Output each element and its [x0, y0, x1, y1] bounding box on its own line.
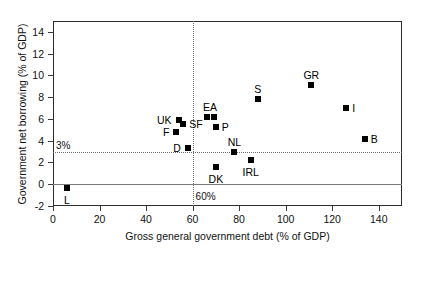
data-point-label: B [371, 134, 378, 145]
y-axis-tick [48, 141, 53, 142]
x-axis-tick [379, 206, 380, 211]
scatter-chart: 3%60%020406080100120140-202468101214Gros… [0, 0, 438, 307]
data-point [64, 185, 70, 191]
data-point [204, 114, 210, 120]
data-point [255, 96, 261, 102]
x-axis-tick-label: 140 [370, 214, 388, 225]
data-point-label: D [173, 143, 181, 154]
data-point [176, 117, 182, 123]
y-axis-tick-label: 0 [38, 179, 44, 190]
data-point-label: E [203, 102, 210, 113]
x-axis-tick-label: 40 [140, 214, 152, 225]
y-axis-tick-label: 6 [38, 114, 44, 125]
data-point-label: GR [303, 70, 319, 81]
x-axis-tick [53, 206, 54, 211]
reference-line-3pct [53, 152, 402, 153]
y-axis-tick [48, 54, 53, 55]
data-point [213, 164, 219, 170]
y-axis-tick [48, 75, 53, 76]
data-point [308, 82, 314, 88]
data-point [231, 149, 237, 155]
y-axis-tick [48, 162, 53, 163]
x-axis-tick [332, 206, 333, 211]
data-point-label: NL [228, 137, 241, 148]
x-axis-tick [239, 206, 240, 211]
x-axis-tick-label: 20 [94, 214, 106, 225]
data-point-label: IRL [243, 167, 259, 178]
data-point-label: F [163, 127, 169, 138]
data-point-label: S [254, 84, 261, 95]
data-point [362, 136, 368, 142]
y-axis-tick-label: 14 [32, 27, 44, 38]
data-point [173, 129, 179, 135]
plot-area [53, 21, 402, 206]
x-axis-tick [193, 206, 194, 211]
y-axis-tick-label: 10 [32, 70, 44, 81]
reference-line-60pct [193, 21, 194, 206]
x-axis-tick-label: 100 [277, 214, 295, 225]
y-axis-tick [48, 119, 53, 120]
x-axis-tick [286, 206, 287, 211]
reference-label-60pct: 60% [195, 192, 217, 202]
x-axis-tick [100, 206, 101, 211]
x-axis-title: Gross general government debt (% of GDP) [125, 230, 329, 242]
x-axis-tick-label: 0 [50, 214, 56, 225]
x-axis-tick-label: 60 [187, 214, 199, 225]
y-axis-tick [48, 206, 53, 207]
x-axis-tick [146, 206, 147, 211]
data-point [343, 105, 349, 111]
x-axis-tick-label: 80 [233, 214, 245, 225]
data-point [213, 124, 219, 130]
data-point-label: I [352, 103, 355, 114]
data-point-label: A [210, 102, 217, 113]
y-axis-tick-label: 8 [38, 92, 44, 103]
data-point-label: DK [209, 174, 224, 185]
x-axis-tick-label: 120 [323, 214, 341, 225]
y-axis-tick [48, 32, 53, 33]
y-axis-tick [48, 97, 53, 98]
reference-label-3pct: 3% [55, 141, 71, 151]
zero-reference-line [53, 184, 402, 185]
data-point-label: SF [189, 119, 202, 130]
y-axis-tick-label: 2 [38, 157, 44, 168]
y-axis-title: Government net borrowing (% of GDP) [16, 23, 28, 204]
data-point-label: L [64, 195, 70, 206]
data-point [248, 157, 254, 163]
data-point-label: UK [157, 115, 172, 126]
y-axis-tick-label: -2 [35, 201, 44, 212]
y-axis-tick-label: 12 [32, 48, 44, 59]
y-axis-tick [48, 184, 53, 185]
data-point [185, 145, 191, 151]
data-point [211, 114, 217, 120]
y-axis-tick-label: 4 [38, 135, 44, 146]
data-point-label: P [222, 122, 229, 133]
